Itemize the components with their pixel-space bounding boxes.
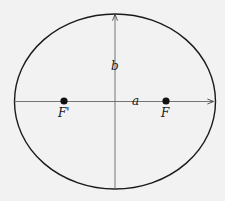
ellipse-diagram: F' F a b (0, 0, 225, 201)
label-focus-right: F (160, 106, 170, 120)
focus-left-point (60, 97, 67, 104)
focus-right-point (162, 97, 169, 104)
label-semi-minor: b (111, 59, 119, 73)
label-focus-left: F' (57, 106, 70, 120)
label-semi-major: a (132, 94, 139, 108)
